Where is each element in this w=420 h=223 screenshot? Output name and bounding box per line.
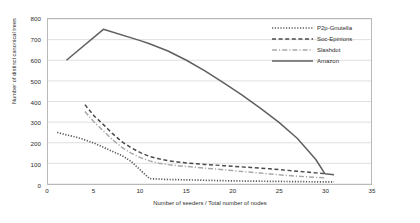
x-tick-label-3: 15 (183, 187, 190, 194)
y-tick-label-4: 400 (30, 98, 41, 105)
x-axis-tick-labels: 05101520253035 (47, 187, 372, 199)
y-tick-label-6: 600 (30, 56, 41, 63)
legend-swatch-icon (272, 57, 313, 65)
x-axis-title: Number of seeders / Total number of node… (0, 200, 420, 206)
y-tick-label-2: 200 (30, 140, 41, 147)
legend-label: Soc-Epinions (317, 36, 352, 42)
legend-swatch-icon (272, 24, 313, 32)
chart-legend: P2p-GnutellaSoc-EpinionsSlashdotAmazon (272, 22, 367, 66)
y-tick-label-7: 700 (30, 35, 41, 42)
y-tick-label-1: 100 (30, 161, 41, 168)
x-tick-label-2: 10 (136, 187, 143, 194)
x-tick-label-5: 25 (276, 187, 283, 194)
x-tick-label-1: 5 (92, 187, 95, 194)
legend-label: P2p-Gnutella (317, 25, 352, 31)
legend-swatch-icon (272, 46, 313, 54)
legend-item-soc-epinions[interactable]: Soc-Epinions (272, 33, 367, 44)
x-tick-label-4: 20 (229, 187, 236, 194)
y-tick-label-8: 800 (30, 15, 41, 22)
chart-container: Number of distinct canonical trees 01002… (0, 0, 420, 223)
legend-item-slashdot[interactable]: Slashdot (272, 44, 367, 55)
y-tick-label-3: 300 (30, 119, 41, 126)
legend-label: Amazon (317, 58, 339, 64)
legend-item-amazon[interactable]: Amazon (272, 55, 367, 66)
y-axis-tick-labels: 0100200300400500600700800 (0, 18, 45, 185)
legend-label: Slashdot (317, 47, 340, 53)
x-tick-label-7: 35 (369, 187, 376, 194)
x-tick-label-0: 0 (45, 187, 48, 194)
x-tick-label-6: 30 (322, 187, 329, 194)
legend-swatch-icon (272, 35, 313, 43)
y-tick-label-5: 500 (30, 77, 41, 84)
legend-item-p2p-gnutella[interactable]: P2p-Gnutella (272, 22, 367, 33)
y-tick-label-0: 0 (37, 182, 41, 189)
